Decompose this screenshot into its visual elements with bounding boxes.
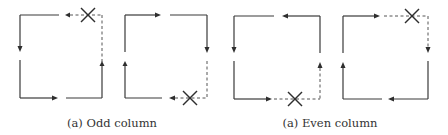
panel-odd-1 bbox=[18, 8, 105, 101]
panel-odd-2 bbox=[123, 13, 210, 106]
arrow-right-icon bbox=[52, 96, 58, 101]
arrow-right-icon bbox=[374, 14, 380, 19]
arrow-right-icon bbox=[266, 97, 272, 102]
fault-cross-icon bbox=[288, 92, 302, 106]
arrow-left-icon bbox=[65, 13, 70, 18]
caption-odd-column: (a) Odd column bbox=[67, 116, 157, 130]
panel-even-2 bbox=[341, 9, 431, 102]
arrow-up-icon bbox=[318, 62, 323, 68]
arrow-left-icon bbox=[388, 97, 394, 102]
arrow-up-icon bbox=[100, 61, 105, 66]
arrow-left-icon bbox=[169, 96, 175, 101]
arrow-down-icon bbox=[232, 47, 237, 53]
panel-even-1 bbox=[232, 14, 323, 107]
arrow-up-icon bbox=[123, 61, 128, 66]
arrow-left-icon bbox=[282, 14, 288, 19]
routing-diagram bbox=[0, 0, 448, 135]
caption-even-column: (a) Even column bbox=[282, 116, 377, 130]
arrow-down-icon bbox=[426, 47, 431, 53]
arrow-up-icon bbox=[341, 62, 346, 68]
arrow-down-icon bbox=[205, 47, 210, 53]
arrow-right-icon bbox=[155, 13, 161, 18]
fault-cross-icon bbox=[183, 91, 197, 105]
arrow-down-icon bbox=[18, 46, 23, 52]
